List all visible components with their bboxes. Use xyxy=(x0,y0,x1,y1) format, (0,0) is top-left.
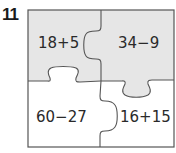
piece-bottom-left-expression: 60−27 xyxy=(36,110,87,125)
piece-top-left-expression: 18+5 xyxy=(38,36,79,51)
piece-top-right-expression: 34−9 xyxy=(118,36,159,51)
piece-bottom-right-expression: 16+15 xyxy=(120,110,171,125)
jigsaw-puzzle xyxy=(0,0,176,153)
